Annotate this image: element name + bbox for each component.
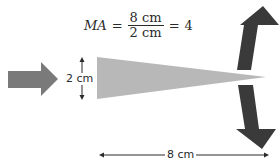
input-force-arrow-icon — [8, 62, 58, 96]
formula-equals-2: = — [169, 18, 180, 33]
formula-lhs: MA — [84, 18, 107, 33]
formula-denominator: 2 cm — [128, 26, 164, 40]
output-force-arrow-up-icon — [237, 6, 279, 70]
wedge-length-label: 8 cm — [165, 149, 196, 161]
formula-equals: = — [112, 18, 123, 33]
mechanical-advantage-formula: MA = 8 cm 2 cm = 4 — [84, 8, 204, 42]
formula-fraction: 8 cm 2 cm — [128, 11, 164, 40]
output-force-arrow-down-icon — [236, 85, 276, 149]
formula-result: 4 — [185, 18, 193, 33]
formula-numerator: 8 cm — [128, 11, 164, 26]
wedge-diagram: MA = 8 cm 2 cm = 4 2 cm 8 cm — [0, 0, 280, 168]
wedge-height-label: 2 cm — [65, 73, 94, 85]
